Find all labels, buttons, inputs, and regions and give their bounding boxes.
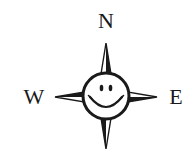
compass-rose-illustration: N W E [0, 0, 187, 151]
left-eye-icon [100, 85, 104, 92]
south-point-icon [101, 118, 111, 149]
smiley-face-icon [83, 73, 129, 119]
east-point-icon [128, 92, 157, 102]
north-point-icon [101, 43, 111, 74]
west-point-icon [55, 92, 84, 102]
compass-star-icon [0, 0, 187, 151]
right-eye-icon [109, 85, 113, 92]
